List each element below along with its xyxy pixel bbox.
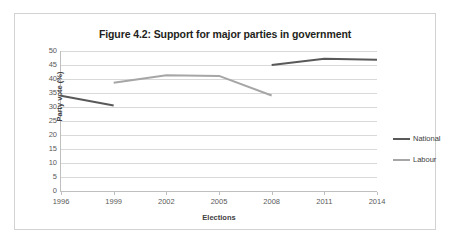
- x-axis-tick-mark: [61, 192, 62, 195]
- x-axis-tick-label: 1996: [38, 198, 84, 206]
- x-axis-tick-label: 2008: [249, 198, 295, 206]
- legend-swatch-icon: [393, 159, 410, 161]
- y-axis-tick-label: 15: [17, 145, 57, 153]
- x-axis-tick-mark: [114, 192, 115, 195]
- chart-legend: NationalLabour: [393, 132, 452, 174]
- x-axis-tick-mark: [377, 192, 378, 195]
- legend-entry-national[interactable]: National: [393, 132, 452, 145]
- x-axis-tick-label: 2002: [143, 198, 189, 206]
- y-axis-tick-label: 35: [17, 89, 57, 97]
- legend-label: National: [413, 134, 441, 143]
- y-axis-tick-label: 30: [17, 103, 57, 111]
- x-axis-tick-mark: [324, 192, 325, 195]
- y-axis-tick-labels: 05101520253035404550: [15, 51, 57, 191]
- figure-frame: Figure 4.2: Support for major parties in…: [14, 13, 436, 230]
- y-axis-tick-label: 5: [17, 173, 57, 181]
- x-axis-tick-label: 2011: [301, 198, 347, 206]
- x-axis-tick-mark: [272, 192, 273, 195]
- x-axis-tick-labels: 1996199920022005200820112014: [61, 198, 377, 210]
- x-axis-tick-label: 2005: [196, 198, 242, 206]
- y-axis-tick-label: 0: [17, 187, 57, 195]
- x-axis-tick-mark: [219, 192, 220, 195]
- chart-title: Figure 4.2: Support for major parties in…: [15, 28, 435, 40]
- legend-entry-labour[interactable]: Labour: [393, 153, 452, 166]
- y-axis-tick-label: 45: [17, 61, 57, 69]
- series-line-labour: [114, 75, 272, 95]
- y-axis-tick-label: 20: [17, 131, 57, 139]
- y-axis-tick-label: 50: [17, 47, 57, 55]
- x-axis-tick-label: 2014: [354, 198, 400, 206]
- y-axis-tick-label: 25: [17, 117, 57, 125]
- x-axis-tick-mark: [166, 192, 167, 195]
- x-axis-title: Elections: [61, 213, 377, 222]
- series-line-national: [61, 96, 114, 106]
- series-line-national: [272, 59, 377, 65]
- x-axis-tick-label: 1999: [91, 198, 137, 206]
- y-axis-tick-label: 40: [17, 75, 57, 83]
- legend-swatch-icon: [393, 138, 410, 140]
- y-axis-tick-label: 10: [17, 159, 57, 167]
- series-lines: [61, 51, 377, 191]
- legend-label: Labour: [413, 155, 436, 164]
- x-axis-tick-marks: [61, 192, 377, 196]
